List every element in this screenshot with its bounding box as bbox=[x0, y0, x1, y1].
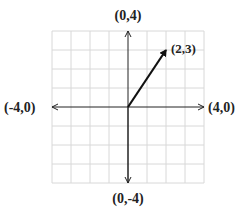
label-top: (0,4) bbox=[115, 8, 142, 24]
label-bottom: (0,-4) bbox=[112, 191, 144, 207]
label-vector-tip: (2,3) bbox=[171, 41, 196, 56]
label-right: (4,0) bbox=[208, 100, 235, 116]
vector-diagram: (0,4) (0,-4) (-4,0) (4,0) (2,3) bbox=[0, 0, 247, 214]
label-left: (-4,0) bbox=[4, 100, 36, 116]
